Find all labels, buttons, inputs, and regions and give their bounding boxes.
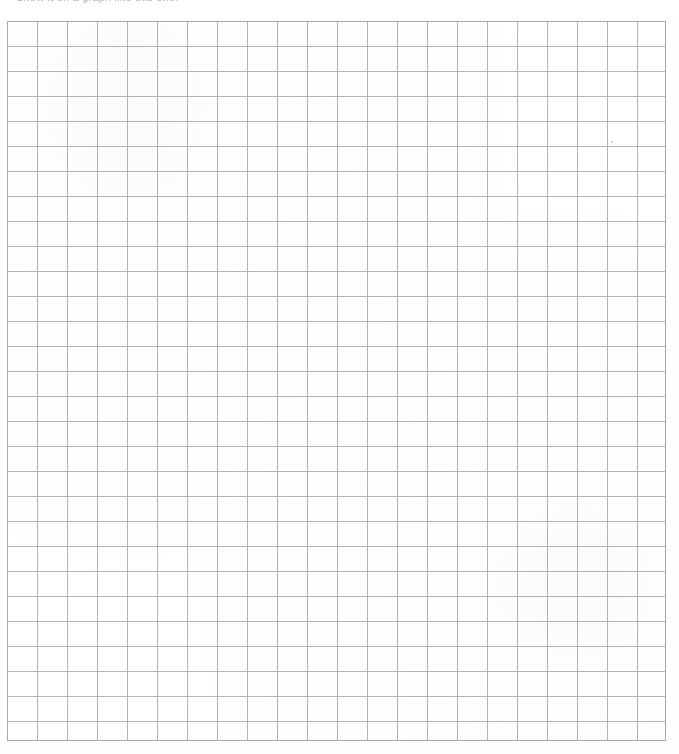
caption-strip: Show it on a graph like this one: bbox=[0, 0, 679, 17]
caption-text: Show it on a graph like this one: bbox=[16, 0, 179, 4]
graph-grid[interactable] bbox=[7, 21, 666, 741]
grid-lines bbox=[7, 21, 666, 741]
grid-frame bbox=[7, 21, 666, 741]
paper-tint bbox=[7, 21, 666, 741]
